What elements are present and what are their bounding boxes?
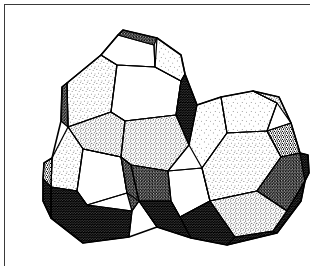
polyhedra-cluster-illustration: Cluster of three fused polyhedra Black-a… [5,5,311,267]
page-root: Cluster of three fused polyhedra Black-a… [0,0,322,279]
figure-frame: Cluster of three fused polyhedra Black-a… [4,4,310,266]
